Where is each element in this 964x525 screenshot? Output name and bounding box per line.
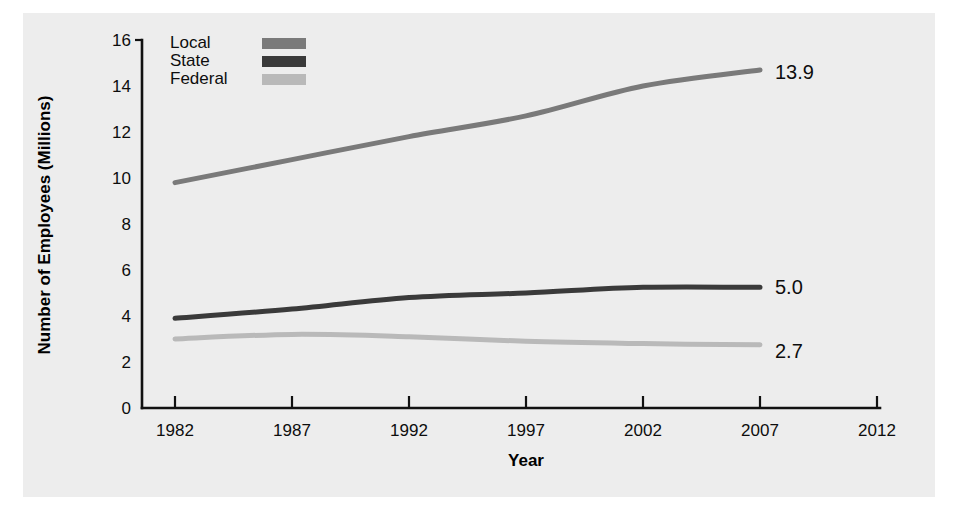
legend-item-state[interactable]: State [170,51,306,70]
y-tick-label-12: 12 [112,123,131,142]
series-line-federal [175,334,760,344]
y-tick-label-0: 0 [122,399,131,418]
legend-label-state: State [170,51,210,70]
legend-swatch-local [262,38,306,49]
end-label-federal: 2.7 [775,340,803,362]
series-line-local [175,70,760,183]
y-tick-label-16: 16 [112,31,131,50]
y-tick-label-14: 14 [112,77,131,96]
y-tick-label-2: 2 [122,353,131,372]
y-tick-label-4: 4 [122,307,131,326]
y-tick-label-8: 8 [122,215,131,234]
legend-swatch-federal [262,74,306,85]
x-tick-label-2002: 2002 [624,421,662,440]
legend-label-local: Local [170,33,211,52]
x-tick-label-2007: 2007 [741,421,779,440]
x-tick-label-1982: 1982 [156,421,194,440]
legend-item-local[interactable]: Local [170,33,306,52]
series-line-state [175,287,760,318]
legend: Local State Federal [170,33,306,88]
legend-swatch-state [262,56,306,67]
chart-page: Number of Employees (Millions) 16 14 12 … [0,0,964,525]
x-tick-label-1997: 1997 [507,421,545,440]
y-axis-title: Number of Employees (Millions) [35,96,54,355]
x-tick-label-2012: 2012 [858,421,896,440]
legend-label-federal: Federal [170,69,228,88]
x-tick-label-1987: 1987 [273,421,311,440]
y-tick-label-6: 6 [122,261,131,280]
x-axis-title: Year [508,451,544,470]
plot-area: Number of Employees (Millions) 16 14 12 … [0,0,964,525]
x-tick-label-1992: 1992 [390,421,428,440]
legend-item-federal[interactable]: Federal [170,69,306,88]
end-label-local: 13.9 [775,61,814,83]
y-tick-label-10: 10 [112,169,131,188]
end-label-state: 5.0 [775,276,803,298]
